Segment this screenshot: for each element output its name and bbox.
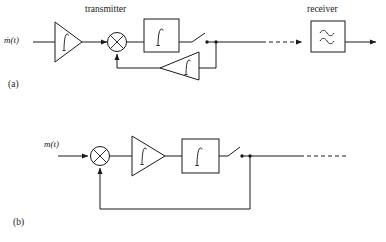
feedback-amplifier <box>160 52 199 80</box>
input-signal-label-a: ṁ(t) <box>4 36 19 45</box>
panel-caption-b: (b) <box>13 218 24 228</box>
summing-mixer-b <box>91 147 110 166</box>
panel-a <box>33 19 376 80</box>
integrator-block <box>144 19 179 52</box>
diagram-canvas <box>0 0 386 242</box>
panel-caption-a: (a) <box>8 80 19 90</box>
sampling-switch[interactable] <box>192 33 209 44</box>
figure-container: ṁ(t) transmitter receiver (a) m(t) (b) <box>0 0 386 242</box>
panel-b <box>58 136 348 209</box>
input-amplifier <box>55 22 82 62</box>
sampling-switch-b[interactable] <box>228 147 244 158</box>
mixer <box>108 33 127 52</box>
transmitter-label: transmitter <box>85 5 126 15</box>
receiver-filter-block <box>311 21 345 52</box>
receiver-label: receiver <box>307 5 338 15</box>
integrator-block-b <box>182 139 219 173</box>
amplifier-b <box>132 136 165 176</box>
input-signal-label-b: m(t) <box>44 140 59 149</box>
